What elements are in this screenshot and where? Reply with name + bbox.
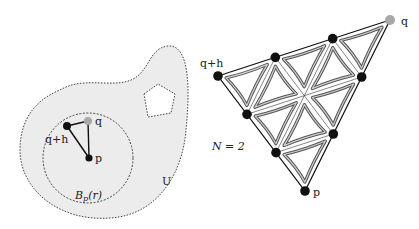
subtriangle-curves <box>226 27 382 182</box>
segment-q-p <box>88 121 89 158</box>
label-ball-main: B <box>74 189 83 202</box>
label-qh-left: q+h <box>45 133 68 146</box>
subdivision-vertex <box>329 129 339 139</box>
point-q-left <box>84 117 92 125</box>
point-p-left <box>85 154 92 161</box>
label-subdivision-n: N = 2 <box>211 140 245 153</box>
label-q-left: q <box>95 115 102 128</box>
subdivision-vertex <box>357 72 367 82</box>
subdivision-vertex <box>328 34 338 44</box>
label-qh-right: q+h <box>200 57 223 70</box>
label-p-left: p <box>95 152 102 165</box>
label-q-right: q <box>401 15 408 28</box>
label-region-u: U <box>162 175 171 188</box>
left-figure: q q+h p U Bp(r) <box>20 46 188 218</box>
right-figure: q q+h p N = 2 <box>200 15 408 199</box>
point-qh-left <box>63 122 71 130</box>
label-ball: Bp(r) <box>74 189 102 203</box>
subdivision-vertex <box>271 148 281 158</box>
subdivision-vertex <box>213 71 223 81</box>
interior-edge <box>333 39 362 77</box>
diagram-canvas: q q+h p U Bp(r) q q+h p N = 2 <box>0 0 419 229</box>
subdivision-vertex <box>271 53 281 63</box>
subdivision-vertex <box>242 110 252 120</box>
label-p-right: p <box>313 186 320 199</box>
label-ball-arg: (r) <box>88 189 102 202</box>
point-q-right <box>385 15 395 25</box>
subdivision-vertex <box>300 186 310 196</box>
